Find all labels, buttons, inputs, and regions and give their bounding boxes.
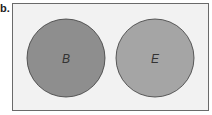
venn-diagram: B E	[0, 0, 212, 115]
set-e-label: E	[151, 52, 160, 66]
set-b-label: B	[62, 52, 70, 66]
